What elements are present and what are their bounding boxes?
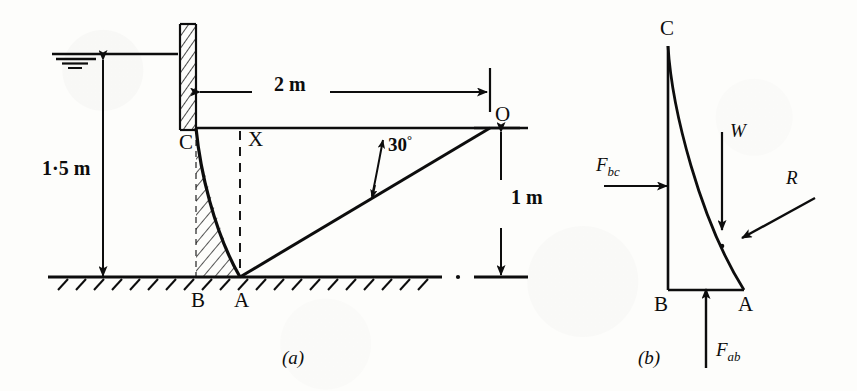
free-body-outline [668, 46, 744, 290]
point-label-b-a: B [191, 290, 205, 311]
dimension-horizontal-span [200, 68, 490, 112]
force-arrow-w [720, 132, 725, 248]
angle-indicator-30 [372, 140, 383, 198]
force-arrow-r [742, 198, 815, 238]
force-label-w: W [730, 121, 746, 140]
force-label-r: R [786, 168, 798, 187]
sloped-line-a-to-o [240, 128, 490, 277]
angle-label-30-degrees: 30° [388, 134, 412, 154]
point-label-c-a: C [179, 132, 193, 153]
dimension-label-vertical-height: 1 m [511, 187, 543, 207]
point-label-o: O [495, 104, 510, 125]
dimension-label-horizontal-span: 2 m [274, 74, 306, 94]
water-level-symbol [52, 54, 178, 68]
point-label-c-b: C [660, 18, 674, 39]
force-label-fbc: Fbc [596, 155, 620, 179]
caption-b: (b) [638, 348, 660, 367]
point-label-b-b: B [654, 294, 668, 315]
force-label-fab: Fab [716, 340, 741, 364]
point-label-x: X [248, 129, 263, 150]
caption-a: (a) [282, 348, 304, 367]
hatched-vertical-wall [180, 24, 196, 130]
hatched-pressure-region [196, 128, 240, 277]
figure-page: 1·5 m 2 m 1 m 30° C X B A O (a) C Fbc W … [0, 0, 857, 391]
figure-canvas [0, 0, 857, 391]
ground-line [48, 275, 528, 290]
dimension-label-water-depth: 1·5 m [42, 158, 90, 178]
point-label-a-b: A [738, 294, 753, 315]
point-label-a-a: A [234, 290, 249, 311]
